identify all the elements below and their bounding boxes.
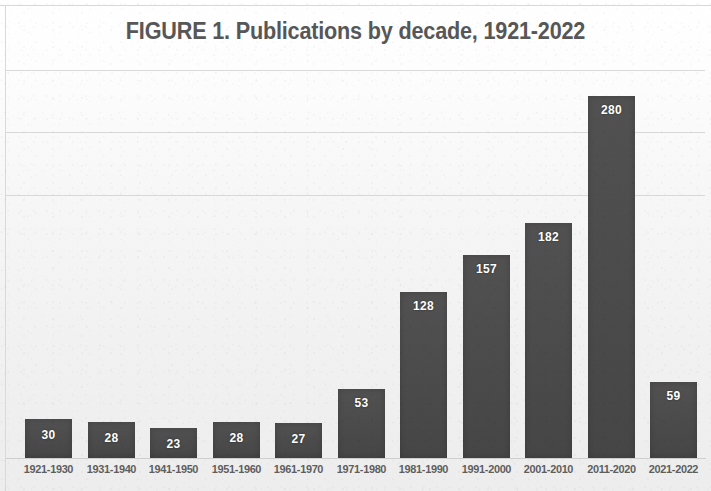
- x-axis-tick-label: 1971-1980: [331, 463, 393, 475]
- scan-top-border: [0, 5, 711, 6]
- x-axis-tick-label: 2001-2010: [518, 463, 580, 475]
- bar-value-label: 23: [150, 437, 197, 451]
- bar-value-label: 128: [400, 299, 447, 313]
- gridline-300: [6, 70, 705, 71]
- bar: 59: [650, 382, 697, 458]
- figure-title: FIGURE 1. Publications by decade, 1921-2…: [21, 18, 689, 45]
- bar-value-label: 182: [525, 230, 572, 244]
- bar-value-label: 280: [588, 103, 635, 117]
- bar-value-label: 30: [25, 428, 72, 442]
- bar-value-label: 28: [213, 431, 260, 445]
- x-axis-tick-label: 1981-1990: [393, 463, 455, 475]
- bar: 280: [588, 96, 635, 458]
- bar-value-label: 27: [275, 432, 322, 446]
- bar: 53: [338, 389, 385, 458]
- bar-value-label: 53: [338, 396, 385, 410]
- x-axis-tick-label: 2021-2022: [643, 463, 705, 475]
- bar-value-label: 157: [463, 262, 510, 276]
- bar-value-label: 28: [88, 431, 135, 445]
- x-axis-tick-label: 1951-1960: [206, 463, 268, 475]
- bar: 28: [213, 422, 260, 458]
- x-axis-tick-label: 1931-1940: [81, 463, 143, 475]
- bar: 182: [525, 223, 572, 458]
- bar: 23: [150, 428, 197, 458]
- bar: 28: [88, 422, 135, 458]
- bar: 30: [25, 419, 72, 458]
- x-axis-tick-label: 1991-2000: [456, 463, 518, 475]
- x-axis-tick-label: 2011-2020: [581, 463, 643, 475]
- bar: 128: [400, 292, 447, 458]
- x-axis-tick-label: 1921-1930: [18, 463, 80, 475]
- figure-container: FIGURE 1. Publications by decade, 1921-2…: [0, 0, 711, 491]
- bar: 157: [463, 255, 510, 458]
- bar-value-label: 59: [650, 389, 697, 403]
- x-axis-tick-label: 1961-1970: [268, 463, 330, 475]
- bar: 27: [275, 423, 322, 458]
- x-axis-baseline: [6, 458, 706, 459]
- x-axis-tick-label: 1941-1950: [143, 463, 205, 475]
